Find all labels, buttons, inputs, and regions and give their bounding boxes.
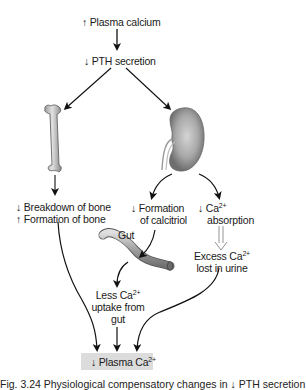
arrow-kidney-to-calcitriol [152, 174, 172, 197]
arrow-pth-to-bone [66, 68, 111, 108]
gut-icon [103, 233, 173, 271]
arrow-pth-to-kidney [126, 68, 169, 108]
label-less-ca-uptake: Less Ca2+ uptake from gut [88, 289, 148, 325]
bone-icon [45, 105, 62, 172]
plasma-ca-box: ↓ Plasma Ca2+ [81, 353, 153, 370]
arrow-bone-to-plasma [58, 222, 97, 349]
arrow-kidney-to-absorption [199, 174, 219, 197]
down-arrow-icon: ↓ [16, 201, 21, 213]
arrow-gut-to-uptake [117, 262, 128, 285]
figure-caption: Fig. 3.24 Physiological compensatory cha… [0, 378, 305, 390]
label-plasma-ca-down: ↓ Plasma Ca2+ [91, 356, 156, 368]
label-gut: Gut [118, 229, 134, 241]
down-arrow-icon: ↓ [84, 55, 89, 67]
label-ca-absorption: ↓ Ca2+ absorption [198, 202, 254, 226]
label-plasma-calcium-up: ↑ Plasma calcium [82, 16, 161, 28]
down-arrow-icon: ↓ [131, 202, 136, 214]
label-calcitriol: ↓ Formation of calcitriol [131, 202, 187, 226]
hollow-arrow [215, 226, 227, 250]
label-bone-effects: ↓ Breakdown of bone ↑ Formation of bone [16, 201, 111, 225]
down-arrow-icon: ↓ [91, 356, 96, 368]
up-arrow-icon: ↑ [16, 213, 21, 225]
up-arrow-icon: ↑ [82, 16, 87, 28]
down-arrow-icon: ↓ [198, 202, 203, 214]
kidney-icon [162, 108, 204, 171]
arrow-urine-to-plasma [137, 268, 219, 349]
label-excess-ca: Excess Ca2+ lost in urine [190, 250, 254, 274]
label-pth-secretion: ↓ PTH secretion [84, 55, 156, 67]
